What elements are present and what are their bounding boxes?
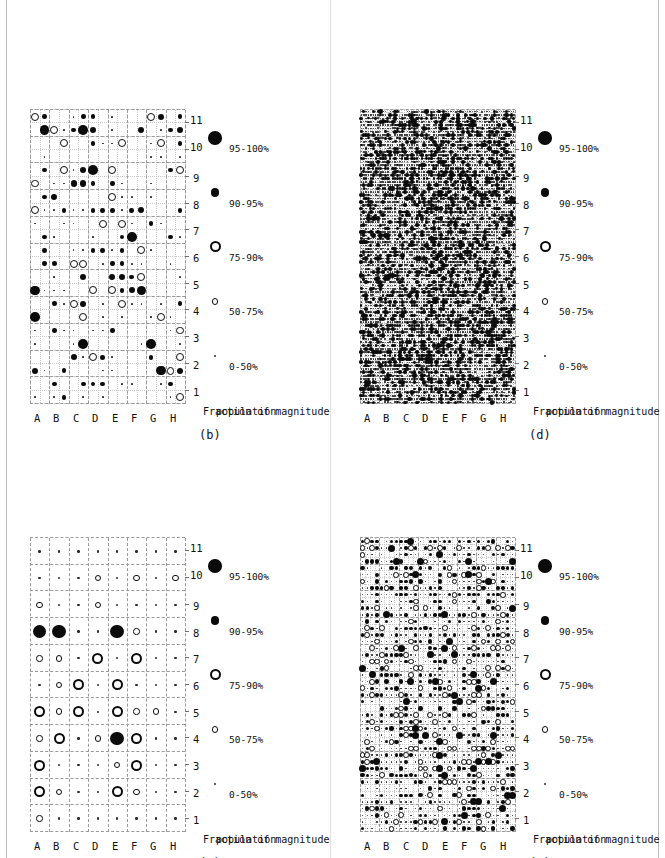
data-point (361, 114, 362, 115)
data-point (508, 328, 509, 329)
data-point (414, 620, 417, 623)
data-point (414, 627, 417, 630)
data-point (80, 167, 86, 173)
data-point (390, 402, 391, 403)
data-point (511, 372, 512, 373)
data-point (400, 628, 401, 629)
data-point (486, 392, 487, 393)
data-point (373, 225, 374, 226)
data-point (395, 753, 398, 756)
data-point (389, 566, 393, 570)
data-point (400, 688, 401, 689)
data-point (478, 621, 479, 622)
data-point (506, 181, 507, 182)
data-point (447, 113, 451, 117)
data-point (371, 754, 372, 755)
data-point (492, 747, 495, 750)
data-point (400, 554, 401, 555)
data-point (502, 621, 503, 622)
data-point (465, 311, 466, 312)
data-point (468, 547, 469, 548)
data-point (436, 211, 437, 212)
x-tick-mark (515, 390, 519, 391)
data-point (507, 754, 508, 755)
minor-gridline (365, 538, 366, 832)
data-point (416, 141, 418, 143)
data-point (434, 761, 435, 762)
data-point (361, 181, 362, 182)
data-point (402, 328, 403, 329)
x-tick-label: 2 (523, 788, 529, 799)
data-point (401, 214, 404, 217)
data-point (452, 573, 456, 577)
data-point (438, 667, 441, 670)
data-point (496, 707, 499, 710)
data-point (453, 633, 456, 636)
data-point (430, 387, 434, 391)
data-point (469, 154, 470, 155)
data-point (92, 236, 94, 238)
data-point (400, 607, 401, 608)
data-point (408, 672, 414, 678)
data-point (460, 154, 461, 155)
x-tick-label: 10 (190, 571, 203, 582)
data-point (100, 208, 105, 213)
data-point (97, 764, 99, 766)
data-point (365, 338, 366, 339)
data-point (120, 248, 125, 253)
data-point (434, 628, 435, 629)
data-point (390, 205, 391, 206)
data-point (478, 174, 481, 177)
data-point (376, 795, 377, 796)
data-point (487, 687, 490, 690)
data-point (413, 746, 419, 752)
data-point (443, 633, 447, 637)
data-point (453, 275, 454, 276)
data-point (418, 579, 422, 583)
data-point (438, 794, 441, 797)
data-point (468, 601, 469, 602)
data-point (497, 601, 498, 602)
data-point (395, 780, 398, 783)
data-point (138, 127, 144, 133)
data-point (473, 621, 474, 622)
data-point (425, 754, 426, 755)
data-point (176, 353, 184, 361)
data-point (385, 221, 386, 222)
data-point (431, 184, 432, 185)
data-point (111, 116, 113, 118)
data-point (390, 321, 391, 322)
data-point (513, 114, 515, 116)
data-point (465, 398, 466, 399)
x-tick-mark (515, 363, 519, 364)
data-point (459, 721, 460, 722)
data-point (443, 546, 446, 549)
gridline-value (30, 564, 185, 565)
data-point (404, 553, 407, 556)
data-point (365, 158, 366, 159)
data-point (503, 295, 504, 296)
data-point (379, 772, 385, 778)
data-point (499, 342, 500, 343)
data-point (411, 225, 412, 226)
data-point (131, 263, 133, 265)
data-point (371, 828, 372, 829)
data-point (361, 128, 362, 129)
data-point (465, 358, 466, 359)
data-point (63, 129, 65, 131)
data-point (457, 342, 458, 343)
data-point (362, 741, 363, 742)
data-point (419, 174, 420, 175)
data-point (71, 354, 77, 360)
data-point (385, 820, 388, 823)
data-point (418, 780, 422, 784)
gridline-value (30, 804, 185, 805)
data-point (468, 628, 469, 629)
x-tick-label: 5 (523, 707, 529, 718)
data-point (430, 741, 431, 742)
data-point (394, 304, 396, 306)
data-point (102, 330, 104, 332)
x-tick-mark (185, 309, 189, 310)
data-point (73, 330, 75, 332)
data-point (416, 154, 417, 155)
